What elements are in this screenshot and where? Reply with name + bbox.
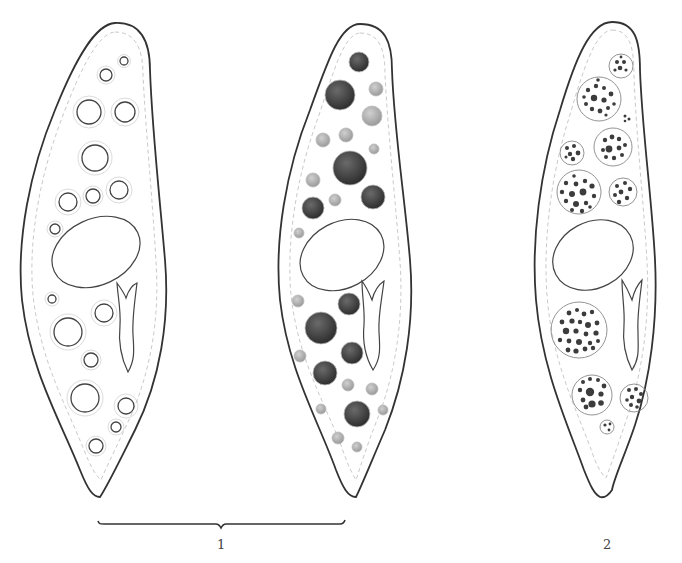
figure-1-bracket	[98, 520, 345, 528]
figure-illustration	[0, 0, 682, 563]
oral-groove	[362, 281, 384, 370]
figure-label-1: 1	[217, 537, 225, 552]
cell-b	[278, 24, 411, 497]
macronucleus	[540, 206, 645, 304]
cell-c	[535, 22, 656, 497]
figure-label-2: 2	[603, 537, 611, 552]
oral-groove	[622, 280, 642, 370]
cell-a	[21, 23, 167, 497]
oral-groove	[117, 283, 137, 372]
